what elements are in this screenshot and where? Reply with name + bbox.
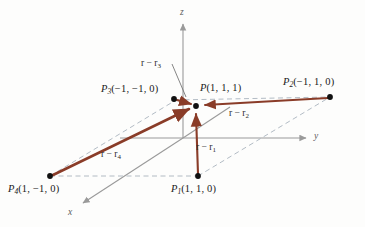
- dashed-P1-P2: [198, 97, 330, 176]
- label-P1-coords: (1, 1, 0): [181, 183, 216, 194]
- dot-P3: [171, 96, 177, 102]
- dot-P4: [47, 173, 53, 179]
- vector-r-minus-r4: [53, 109, 189, 175]
- label-axis-z: z: [180, 8, 184, 18]
- label-axis-y: y: [314, 132, 318, 142]
- label-P4-coords: (1, −1, 0): [18, 183, 59, 194]
- label-vector-r-minus-r3: r − r3: [141, 59, 161, 70]
- label-v1-text: r − r: [196, 142, 212, 152]
- label-point-P: P(1, 1, 1): [200, 83, 241, 95]
- label-vector-r-minus-r4: r − r4: [101, 150, 121, 161]
- label-point-P2: P2(−1, 1, 0): [283, 77, 334, 89]
- label-axis-x: x: [68, 208, 72, 218]
- label-v2-sub: 2: [245, 112, 249, 120]
- dot-P2: [327, 94, 333, 100]
- label-v3-text: r − r: [141, 58, 157, 68]
- dot-P1: [195, 173, 201, 179]
- vector-arrows: [53, 98, 328, 175]
- point-dots: [47, 94, 333, 179]
- label-v2-text: r − r: [229, 108, 245, 118]
- label-v4-text: r − r: [101, 149, 117, 159]
- leader-line-r-minus-r3: [172, 64, 186, 97]
- label-point-P3: P3(−1, −1, 0): [101, 84, 158, 96]
- vector-r-minus-r3: [177, 100, 191, 104]
- figure-canvas: P3(−1, −1, 0) P(1, 1, 1) P2(−1, 1, 0) P4…: [0, 0, 365, 227]
- label-P-coords: (1, 1, 1): [206, 82, 241, 93]
- label-vector-r-minus-r2: r − r2: [229, 109, 249, 120]
- label-vector-r-minus-r1: r − r1: [196, 143, 216, 154]
- label-v1-sub: 1: [212, 146, 216, 154]
- label-v3-sub: 3: [157, 62, 161, 70]
- label-point-P1: P1(1, 1, 0): [171, 184, 216, 196]
- label-P3-coords: (−1, −1, 0): [111, 83, 158, 94]
- label-point-P4: P4(1, −1, 0): [8, 184, 59, 196]
- dot-P: [193, 103, 199, 109]
- label-P2-coords: (−1, 1, 0): [293, 76, 334, 87]
- label-v4-sub: 4: [117, 153, 121, 161]
